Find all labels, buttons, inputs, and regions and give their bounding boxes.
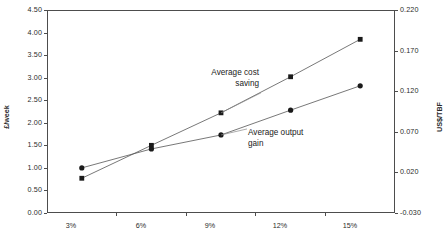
- annotation-output-gain-line2: gain: [248, 139, 338, 150]
- series-average-output-gain: [79, 83, 363, 170]
- data-point-circle: [288, 108, 293, 113]
- leader-line-output-gain: [221, 129, 247, 135]
- annotation-cost-saving: Average cost saving: [177, 68, 259, 89]
- data-point-circle: [79, 165, 84, 170]
- line-output-gain: [82, 86, 360, 168]
- leader-line-cost-saving: [221, 93, 261, 113]
- annotation-output-gain: Average output gain: [248, 128, 338, 149]
- annotation-cost-saving-line2: saving: [177, 79, 259, 90]
- data-point-square: [79, 176, 84, 181]
- data-point-square: [288, 74, 293, 79]
- data-point-square: [358, 37, 363, 42]
- annotation-cost-saving-line1: Average cost: [177, 68, 259, 79]
- data-point-circle: [358, 83, 363, 88]
- line-cost-saving: [82, 39, 360, 178]
- annotation-output-gain-line1: Average output: [248, 128, 338, 139]
- series-average-cost-saving: [79, 37, 362, 181]
- data-point-circle: [149, 146, 154, 151]
